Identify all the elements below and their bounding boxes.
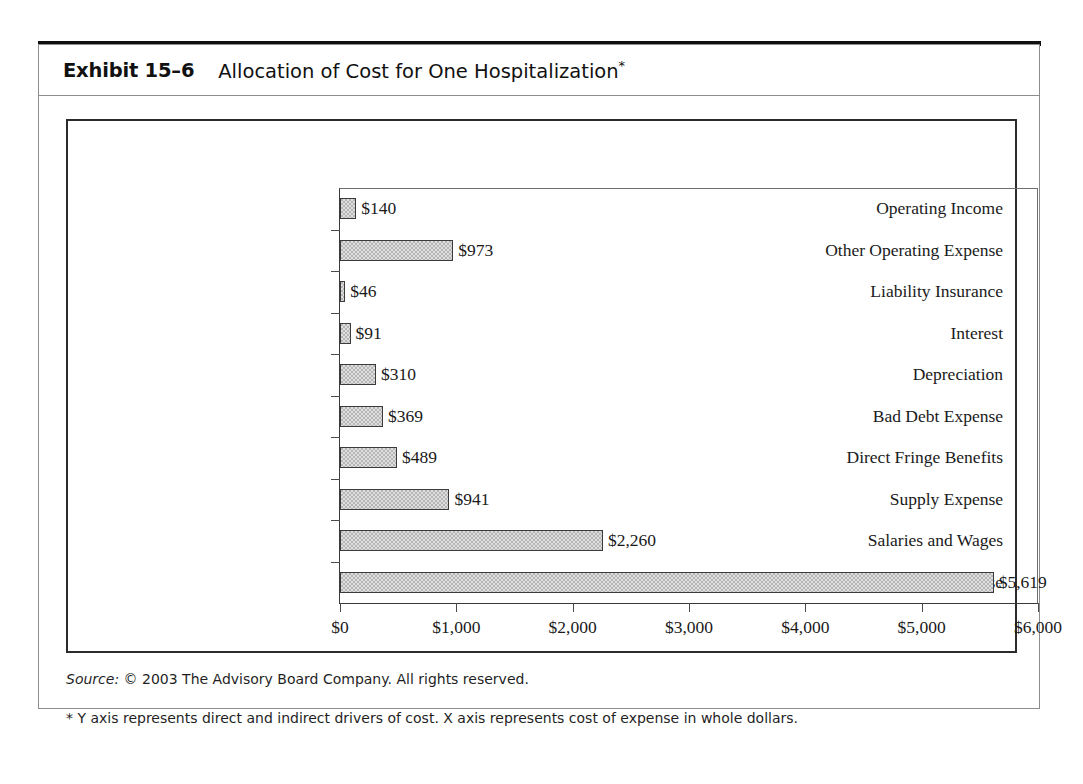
bar [340,364,376,385]
chart-panel: Operating Income$140Other Operating Expe… [66,119,1017,653]
value-axis-tick-label: $4,000 [745,617,865,638]
bar-value-label: $91 [356,323,382,344]
value-axis-tick-label: $5,000 [862,617,982,638]
value-axis-tick-label: $6,000 [978,617,1083,638]
source-text: © 2003 The Advisory Board Company. All r… [119,671,529,687]
bar-row: Salaries and Wages$2,260 [68,520,1015,562]
exhibit-title-text: Allocation of Cost for One Hospitalizati… [218,59,618,82]
bar-row: Interest$91 [68,313,1015,355]
source-note: Source: © 2003 The Advisory Board Compan… [66,671,1017,687]
value-axis-tick [805,603,806,612]
exhibit-title-footnote-marker: * [619,58,626,73]
bar-row: Total Operating Expense$5,619 [68,562,1015,604]
bar-container: $941 [340,479,489,521]
bar [340,323,351,344]
bar [340,489,449,510]
category-label: Depreciation [760,354,1015,396]
bar-container: $2,260 [340,520,656,562]
exhibit-footer: Source: © 2003 The Advisory Board Compan… [66,671,1017,726]
bar [340,281,345,302]
category-label: Supply Expense [760,479,1015,521]
category-label: Liability Insurance [760,271,1015,313]
bar [340,447,397,468]
bar-container: $489 [340,437,437,479]
bar-container: $91 [340,313,382,355]
category-label: Direct Fringe Benefits [760,437,1015,479]
bar-row: Operating Income$140 [68,188,1015,230]
exhibit-frame: Exhibit 15–6 Allocation of Cost for One … [38,44,1040,709]
exhibit-header: Exhibit 15–6 Allocation of Cost for One … [39,45,1039,96]
bar-row: Direct Fringe Benefits$489 [68,437,1015,479]
footnote: * Y axis represents direct and indirect … [66,710,1017,726]
category-label: Salaries and Wages [760,520,1015,562]
bar-container: $369 [340,396,423,438]
value-axis-tick [573,603,574,612]
bar-value-label: $973 [458,240,493,261]
bar-value-label: $2,260 [608,530,656,551]
bar-row: Other Operating Expense$973 [68,230,1015,272]
value-axis-tick [456,603,457,612]
bar [340,572,994,593]
bar-container: $310 [340,354,416,396]
value-axis-tick-label: $3,000 [629,617,749,638]
exhibit-number: Exhibit 15–6 [63,59,194,82]
value-axis-tick [922,603,923,612]
bar-value-label: $310 [381,364,416,385]
bar-row: Supply Expense$941 [68,479,1015,521]
bar-value-label: $46 [350,281,376,302]
exhibit-title: Allocation of Cost for One Hospitalizati… [218,58,625,83]
bar-value-label: $489 [402,447,437,468]
value-axis-tick-label: $2,000 [513,617,633,638]
source-label: Source: [66,671,119,687]
value-axis-tick [689,603,690,612]
value-axis-tick-label: $0 [280,617,400,638]
bar [340,406,383,427]
value-axis-tick [340,603,341,612]
bar-row: Depreciation$310 [68,354,1015,396]
bar-row: Bad Debt Expense$369 [68,396,1015,438]
bar-value-label: $140 [361,198,396,219]
bar-value-label: $369 [388,406,423,427]
bar-value-label: $5,619 [999,572,1047,593]
bar-container: $140 [340,188,396,230]
value-axis-tick [1038,603,1039,612]
value-axis-tick-label: $1,000 [396,617,516,638]
category-label: Bad Debt Expense [760,396,1015,438]
bar-container: $46 [340,271,377,313]
category-label: Interest [760,313,1015,355]
bar [340,240,453,261]
bar [340,198,356,219]
bar-container: $973 [340,230,493,272]
category-label: Operating Income [760,188,1015,230]
bar-value-label: $941 [454,489,489,510]
category-label: Other Operating Expense [760,230,1015,272]
bar-row: Liability Insurance$46 [68,271,1015,313]
bar-container: $5,619 [340,562,1047,604]
bar [340,530,603,551]
